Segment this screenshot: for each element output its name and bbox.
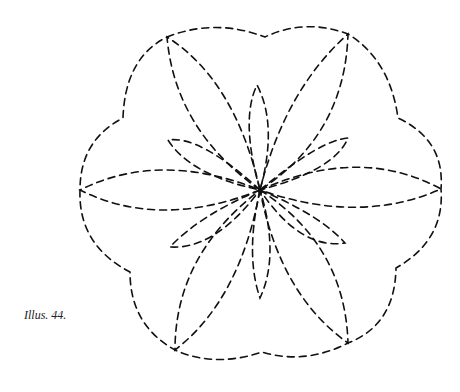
figure-caption: Illus. 44. xyxy=(24,308,66,323)
rosette-illustration xyxy=(0,0,460,392)
small-petals xyxy=(168,85,348,298)
